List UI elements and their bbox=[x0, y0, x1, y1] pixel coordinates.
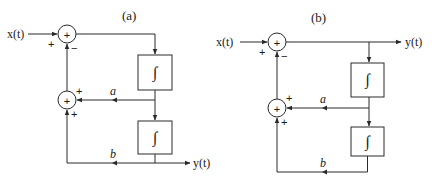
input-label: x(t) bbox=[7, 27, 24, 41]
summing-junction-2: + bbox=[268, 99, 286, 117]
gain-b-label: b bbox=[320, 156, 326, 170]
panel-b-label: (b) bbox=[311, 10, 326, 25]
sign-top-plus: + bbox=[76, 85, 82, 97]
summing-junction-1: + bbox=[58, 25, 76, 43]
summer-symbol: + bbox=[274, 103, 280, 115]
gain-a-arrowhead bbox=[112, 98, 117, 103]
gain-a-label: a bbox=[110, 84, 116, 98]
panel-b: (b) x(t) + + − y(t) ∫ a + + + bbox=[216, 10, 422, 175]
gain-a-arrowhead bbox=[322, 106, 327, 111]
integrator-1: ∫ bbox=[138, 55, 172, 90]
output-label: y(t) bbox=[193, 156, 210, 170]
integrator-2: ∫ bbox=[138, 121, 172, 154]
integrator-2: ∫ bbox=[351, 127, 384, 156]
input-label: x(t) bbox=[216, 35, 233, 49]
gain-b-arrowhead bbox=[112, 161, 117, 166]
summer-symbol: + bbox=[64, 95, 70, 107]
panel-a: (a) x(t) + + − ∫ a + + + bbox=[7, 8, 210, 170]
feedback-sign-minus: − bbox=[71, 42, 77, 54]
sign-bottom-plus: + bbox=[71, 108, 77, 120]
summer-symbol: + bbox=[274, 37, 280, 49]
sign-top-plus: + bbox=[286, 92, 292, 104]
gain-a-label: a bbox=[320, 92, 326, 106]
summer-symbol: + bbox=[64, 29, 70, 41]
sign-bottom-plus: + bbox=[281, 116, 287, 128]
feedback-sign-minus: − bbox=[281, 50, 287, 62]
integrator-1: ∫ bbox=[351, 63, 384, 97]
output-label: y(t) bbox=[405, 35, 422, 49]
gain-b-label: b bbox=[110, 147, 116, 161]
summing-junction-1: + bbox=[268, 33, 286, 51]
gain-b-arrowhead bbox=[322, 170, 327, 175]
input-sign-plus: + bbox=[48, 38, 54, 50]
panel-a-label: (a) bbox=[122, 8, 136, 23]
input-sign-plus: + bbox=[259, 46, 265, 58]
block-diagram: (a) x(t) + + − ∫ a + + + bbox=[0, 0, 432, 177]
forward-path bbox=[76, 34, 155, 54]
summing-junction-2: + bbox=[58, 91, 76, 109]
